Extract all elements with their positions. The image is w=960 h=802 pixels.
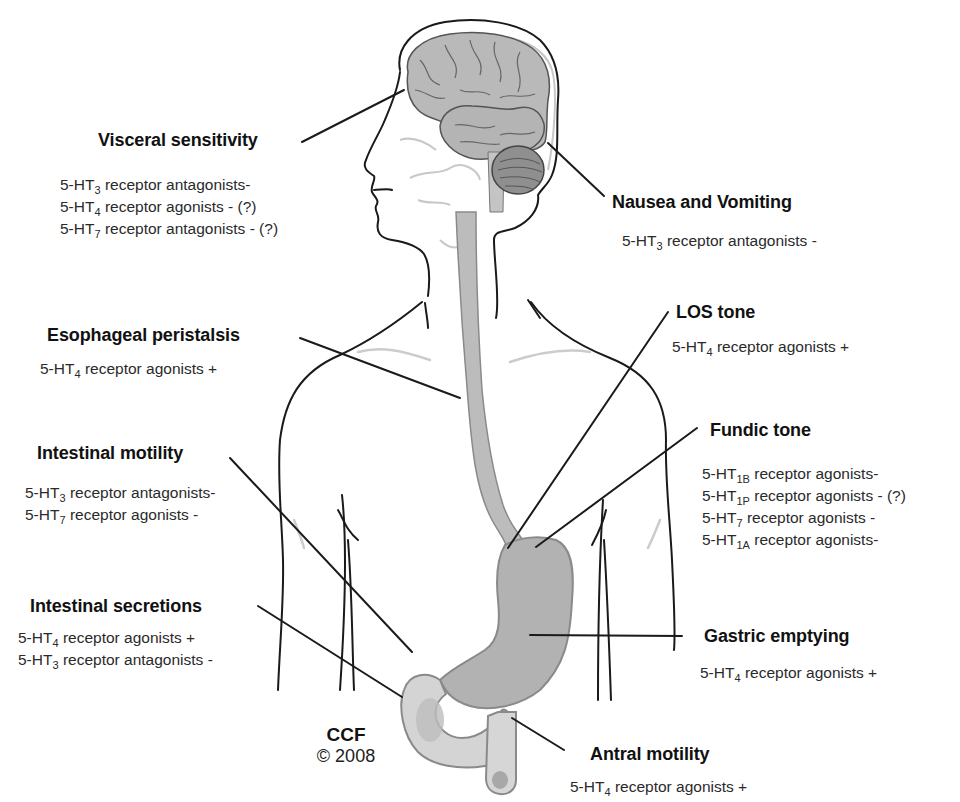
label-fundic-tone: Fundic tone (710, 420, 811, 441)
label-title: Esophageal peristalsis (47, 325, 240, 346)
los-tone-drugs: 5-HT4 receptor agonists + (672, 336, 849, 358)
copyright-credit: CCF © 2008 (306, 724, 386, 767)
stomach (401, 537, 572, 794)
intestinal-secretions-drugs: 5-HT4 receptor agonists + 5-HT3 receptor… (18, 627, 213, 671)
drug-line: 5-HT4 receptor agonists + (40, 358, 217, 380)
drug-line: 5-HT4 receptor agonists + (18, 627, 213, 649)
label-intestinal-secretions: Intestinal secretions (30, 596, 202, 617)
esophagus (456, 212, 530, 555)
credit-org: CCF (306, 724, 386, 746)
label-title: Visceral sensitivity (98, 130, 258, 151)
drug-line: 5-HT1A receptor agonists- (702, 529, 906, 551)
intestinal-motility-drugs: 5-HT3 receptor antagonists- 5-HT7 recept… (25, 482, 216, 526)
label-title: Antral motility (590, 744, 710, 765)
esophageal-peristalsis-drugs: 5-HT4 receptor agonists + (40, 358, 217, 380)
label-title: Nausea and Vomiting (612, 192, 792, 213)
drug-line: 5-HT3 receptor antagonists- (25, 482, 216, 504)
label-intestinal-motility: Intestinal motility (37, 443, 183, 464)
drug-line: 5-HT3 receptor antagonists- (60, 174, 278, 196)
label-gastric-emptying: Gastric emptying (704, 626, 849, 647)
drug-line: 5-HT4 receptor agonists + (672, 336, 849, 358)
leader-lines (230, 90, 697, 750)
credit-year: © 2008 (306, 746, 386, 767)
drug-line: 5-HT1P receptor agonists - (?) (702, 485, 906, 507)
figure-canvas: Visceral sensitivity 5-HT3 receptor anta… (0, 0, 960, 802)
brain (407, 33, 549, 212)
fundic-tone-drugs: 5-HT1B receptor agonists- 5-HT1P recepto… (702, 463, 906, 551)
label-nausea-vomiting: Nausea and Vomiting (612, 192, 792, 213)
drug-line: 5-HT1B receptor agonists- (702, 463, 906, 485)
label-title: Intestinal motility (37, 443, 183, 464)
label-title: LOS tone (676, 302, 755, 323)
label-esophageal-peristalsis: Esophageal peristalsis (47, 325, 240, 346)
drug-line: 5-HT7 receptor agonists - (25, 504, 216, 526)
drug-line: 5-HT3 receptor antagonists - (18, 649, 213, 671)
label-visceral-sensitivity: Visceral sensitivity (98, 130, 258, 151)
drug-line: 5-HT3 receptor antagonists - (622, 230, 817, 252)
label-title: Intestinal secretions (30, 596, 202, 617)
label-title: Fundic tone (710, 420, 811, 441)
antral-motility-drugs: 5-HT4 receptor agonists + (570, 776, 747, 798)
label-title: Gastric emptying (704, 626, 849, 647)
visceral-sensitivity-drugs: 5-HT3 receptor antagonists- 5-HT4 recept… (60, 174, 278, 240)
drug-line: 5-HT7 receptor agonists - (702, 507, 906, 529)
label-antral-motility: Antral motility (590, 744, 710, 765)
drug-line: 5-HT7 receptor antagonists - (?) (60, 218, 278, 240)
drug-line: 5-HT4 receptor agonists + (700, 662, 877, 684)
nausea-vomiting-drugs: 5-HT3 receptor antagonists - (622, 230, 817, 252)
drug-line: 5-HT4 receptor agonists + (570, 776, 747, 798)
gastric-emptying-drugs: 5-HT4 receptor agonists + (700, 662, 877, 684)
drug-line: 5-HT4 receptor agonists - (?) (60, 196, 278, 218)
label-los-tone: LOS tone (676, 302, 755, 323)
